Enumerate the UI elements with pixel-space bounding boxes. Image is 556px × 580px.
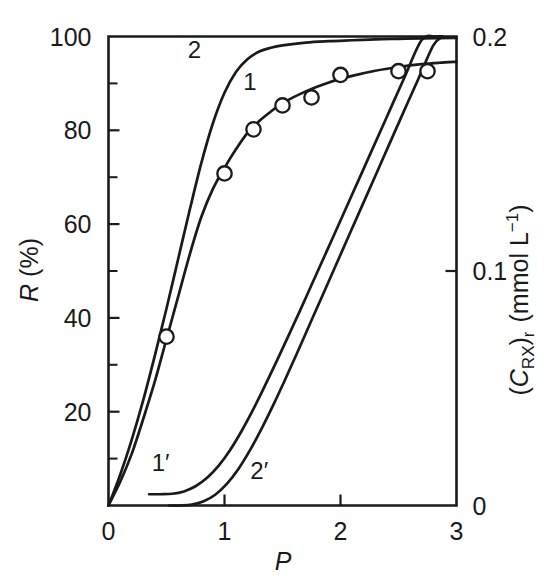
data-point-marker [304, 90, 318, 104]
data-point-marker [246, 122, 260, 136]
y-right-units-open: (mmol L [505, 232, 533, 322]
curve-label-1-prime: 1′ [152, 449, 170, 476]
curve-label-2: 2 [188, 36, 201, 63]
x-ticklabel-2: 2 [334, 517, 348, 545]
y-left-ticklabel-20: 20 [64, 398, 92, 426]
y-axis-left-symbol: R [15, 284, 43, 302]
figure-container: 0123 20406080100 00.10.2 121′2′ P R(%) (… [0, 0, 556, 580]
data-point-marker [333, 68, 347, 82]
y-right-close-subscript: r [519, 331, 538, 337]
data-point-marker [159, 329, 173, 343]
y-left-ticklabel-60: 60 [64, 210, 92, 238]
curve-label-2-prime: 2′ [250, 457, 268, 484]
x-ticklabel-1: 1 [218, 517, 232, 545]
y-left-ticklabel-80: 80 [64, 116, 92, 144]
x-ticklabel-3: 3 [450, 517, 464, 545]
y-left-ticklabel-100: 100 [50, 23, 92, 51]
y-left-ticklabel-40: 40 [64, 304, 92, 332]
x-axis-label: P [275, 547, 292, 575]
curve-label-1: 1 [243, 68, 256, 95]
y-right-ticklabel-0: 0 [473, 492, 487, 520]
y-right-close-paren: ) [505, 337, 533, 345]
y-right-ticklabel-0.2: 0.2 [473, 23, 508, 51]
y-right-ticklabel-0.1: 0.1 [473, 257, 508, 285]
data-point-marker [275, 98, 289, 112]
data-point-marker [391, 64, 405, 78]
chart-svg: 0123 20406080100 00.10.2 121′2′ P R(%) (… [0, 0, 556, 580]
y-axis-left-label: R(%) [15, 238, 43, 302]
y-axis-left-units: (%) [15, 238, 43, 277]
data-point-marker [420, 64, 434, 78]
y-right-units-close: ) [505, 204, 533, 212]
y-axis-left-label-text: R(%) [15, 238, 43, 302]
y-right-symbol-subscript: RX [519, 346, 538, 370]
x-ticklabel-0: 0 [102, 517, 116, 545]
data-point-marker [217, 166, 231, 180]
y-right-units-superscript: −1 [503, 213, 522, 232]
y-right-symbol: C [505, 368, 533, 387]
